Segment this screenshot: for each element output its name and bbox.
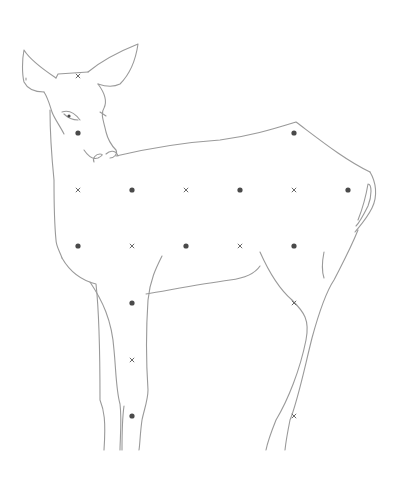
muzzle bbox=[84, 150, 118, 162]
dot-marker bbox=[75, 243, 80, 248]
head-top bbox=[56, 72, 88, 78]
dot-marker bbox=[291, 243, 296, 248]
front-leg-far bbox=[62, 258, 105, 450]
neck-front bbox=[50, 110, 62, 258]
belly bbox=[146, 266, 260, 294]
dot-marker bbox=[75, 130, 80, 135]
right-ear bbox=[88, 44, 138, 86]
dot-marker bbox=[345, 187, 350, 192]
ear-base-mark bbox=[100, 112, 106, 116]
dot-marker bbox=[129, 187, 134, 192]
cross-marker bbox=[292, 188, 296, 192]
cross-marker bbox=[130, 358, 134, 362]
hind-leg-back bbox=[285, 230, 358, 450]
left-ear bbox=[23, 50, 57, 92]
front-leg-near-back bbox=[90, 282, 121, 450]
dot-marker bbox=[129, 300, 134, 305]
cross-marker bbox=[76, 74, 80, 78]
cross-marker bbox=[76, 188, 80, 192]
front-leg-near-inner bbox=[122, 406, 124, 450]
dot-marker bbox=[129, 413, 134, 418]
cross-marker bbox=[184, 188, 188, 192]
hind-leg-front bbox=[260, 252, 307, 450]
cross-marker bbox=[130, 244, 134, 248]
dot-marker bbox=[183, 243, 188, 248]
front-leg-near-front bbox=[139, 256, 162, 450]
back bbox=[116, 122, 370, 172]
eye bbox=[62, 111, 80, 120]
deer-outline bbox=[23, 44, 376, 450]
deer-drawing bbox=[0, 0, 405, 483]
tail bbox=[356, 184, 371, 226]
face-back bbox=[44, 92, 64, 134]
eye-pupil bbox=[67, 114, 70, 117]
hind-leg-inner bbox=[323, 252, 325, 278]
dot-marker bbox=[237, 187, 242, 192]
face-front bbox=[98, 84, 117, 158]
cross-marker bbox=[238, 244, 242, 248]
grid-markers bbox=[75, 74, 350, 419]
dot-marker bbox=[291, 130, 296, 135]
cross-marker bbox=[292, 414, 296, 418]
